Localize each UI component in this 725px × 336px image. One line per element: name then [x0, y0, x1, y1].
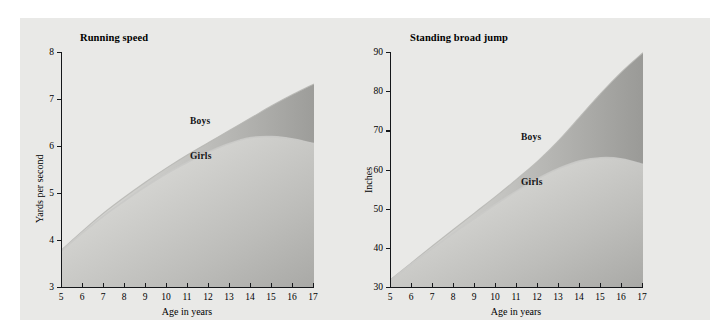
x-axis-line-jump	[390, 287, 643, 288]
x-tick-label: 9	[472, 292, 477, 302]
y-tick-mark	[57, 52, 62, 53]
x-tick-mark	[250, 283, 251, 288]
x-tick-mark	[61, 283, 62, 288]
y-tick-mark	[57, 99, 62, 100]
x-axis-title-running: Age in years	[162, 306, 213, 317]
y-tick-label: 3	[29, 282, 54, 292]
x-tick-label: 12	[203, 292, 213, 302]
x-tick-mark	[166, 283, 167, 288]
x-tick-mark	[621, 283, 622, 288]
x-tick-label: 13	[553, 292, 563, 302]
series-label-boys-running: Boys	[190, 116, 210, 126]
y-tick-label: 70	[358, 125, 383, 135]
x-tick-mark	[187, 283, 188, 288]
x-tick-label: 9	[143, 292, 148, 302]
x-tick-label: 12	[532, 292, 542, 302]
y-tick-label: 40	[358, 243, 383, 253]
x-tick-label: 17	[308, 292, 318, 302]
x-tick-label: 13	[224, 292, 234, 302]
y-tick-label: 80	[358, 86, 383, 96]
x-tick-label: 15	[266, 292, 276, 302]
y-tick-label: 7	[29, 94, 54, 104]
x-tick-label: 15	[595, 292, 605, 302]
x-tick-mark	[271, 283, 272, 288]
series-label-girls-running: Girls	[190, 151, 212, 161]
y-tick-mark	[57, 287, 62, 288]
x-tick-label: 7	[101, 292, 106, 302]
x-tick-label: 14	[574, 292, 584, 302]
y-tick-mark	[386, 52, 391, 53]
x-tick-mark	[516, 283, 517, 288]
x-axis-line-running	[61, 287, 314, 288]
x-tick-mark	[124, 283, 125, 288]
y-axis-line-jump	[390, 52, 391, 288]
x-tick-label: 7	[430, 292, 435, 302]
chart-standing-broad-jump: Standing broad jump	[345, 18, 690, 320]
y-tick-mark	[57, 193, 62, 194]
x-tick-mark	[474, 283, 475, 288]
chart-title-standing-broad-jump: Standing broad jump	[410, 32, 508, 43]
y-tick-mark	[57, 146, 62, 147]
x-tick-mark	[432, 283, 433, 288]
x-tick-mark	[82, 283, 83, 288]
x-tick-label: 16	[287, 292, 297, 302]
x-tick-label: 5	[59, 292, 64, 302]
y-tick-mark	[386, 130, 391, 131]
x-tick-mark	[579, 283, 580, 288]
x-tick-mark	[495, 283, 496, 288]
x-tick-label: 17	[637, 292, 647, 302]
x-tick-label: 5	[388, 292, 393, 302]
x-tick-mark	[453, 283, 454, 288]
x-tick-mark	[103, 283, 104, 288]
y-tick-label: 6	[29, 141, 54, 151]
y-tick-mark	[386, 170, 391, 171]
y-tick-mark	[386, 248, 391, 249]
x-tick-label: 6	[409, 292, 414, 302]
plot-area-running-speed: Boys Girls	[62, 52, 314, 287]
x-tick-label: 10	[161, 292, 171, 302]
x-tick-mark	[600, 283, 601, 288]
x-tick-mark	[411, 283, 412, 288]
figure-panel: Running speed	[20, 18, 710, 320]
y-tick-label: 90	[358, 47, 383, 57]
x-tick-mark	[145, 283, 146, 288]
plot-svg-standing-broad-jump	[391, 52, 643, 287]
y-tick-label: 8	[29, 47, 54, 57]
x-tick-label: 6	[80, 292, 85, 302]
y-tick-label: 30	[358, 282, 383, 292]
x-tick-label: 10	[490, 292, 500, 302]
y-tick-label: 4	[29, 235, 54, 245]
x-tick-label: 8	[122, 292, 127, 302]
plot-svg-running-speed	[62, 52, 314, 287]
chart-title-running-speed: Running speed	[80, 32, 148, 43]
x-tick-label: 14	[245, 292, 255, 302]
y-tick-mark	[57, 240, 62, 241]
y-axis-line-running	[61, 52, 62, 288]
x-tick-label: 11	[182, 292, 191, 302]
x-tick-mark	[642, 283, 643, 288]
x-tick-mark	[313, 283, 314, 288]
y-tick-mark	[386, 287, 391, 288]
chart-running-speed: Running speed	[20, 18, 365, 320]
y-tick-label: 50	[358, 204, 383, 214]
series-label-boys-jump: Boys	[521, 132, 541, 142]
x-tick-label: 16	[616, 292, 626, 302]
x-tick-mark	[390, 283, 391, 288]
x-tick-mark	[537, 283, 538, 288]
x-tick-mark	[292, 283, 293, 288]
y-axis-title-jump: Inches	[363, 167, 374, 193]
y-tick-mark	[386, 91, 391, 92]
x-tick-label: 8	[451, 292, 456, 302]
x-tick-mark	[208, 283, 209, 288]
y-axis-title-running: Yards per second	[34, 155, 45, 223]
series-label-girls-jump: Girls	[521, 177, 543, 187]
x-tick-label: 11	[511, 292, 520, 302]
x-axis-title-jump: Age in years	[491, 306, 542, 317]
x-tick-mark	[558, 283, 559, 288]
x-tick-mark	[229, 283, 230, 288]
plot-area-standing-broad-jump: Boys Girls	[391, 52, 643, 287]
y-tick-mark	[386, 209, 391, 210]
